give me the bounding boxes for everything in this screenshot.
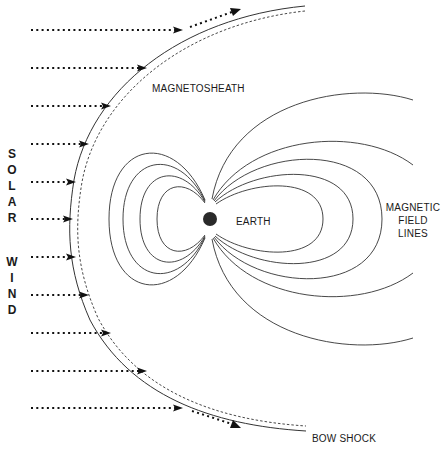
solar-wind-arrow	[31, 405, 183, 412]
bow-shock-label: BOW SHOCK	[312, 433, 376, 444]
field-lines-label-1: MAGNETIC	[386, 202, 440, 213]
solar-wind-letter: W	[6, 255, 18, 269]
solar-wind-letter: L	[8, 179, 15, 193]
solar-wind-letter: D	[8, 303, 17, 317]
magnetosheath-label: MAGNETOSHEATH	[152, 83, 245, 94]
solar-wind-label: SOLARWIND	[6, 147, 18, 317]
solar-wind-letter: O	[7, 163, 16, 177]
solar-wind-letter: I	[10, 271, 13, 285]
open-field-line	[212, 239, 413, 345]
field-line	[123, 164, 205, 273]
deflected-arrow-bottom	[192, 411, 241, 428]
solar-wind-letter: A	[8, 195, 17, 209]
dayside-field-lines	[109, 153, 205, 285]
earth-icon	[203, 212, 217, 226]
solar-wind-arrow	[31, 65, 147, 72]
deflected-arrow-top	[190, 8, 241, 27]
solar-wind-arrow	[31, 254, 76, 261]
field-lines-label-3: LINES	[398, 228, 428, 239]
magnetosphere-diagram: MAGNETOSHEATH EARTH MAGNETIC FIELD LINES…	[0, 0, 446, 452]
field-line	[157, 187, 205, 252]
solar-wind-letter: S	[8, 147, 16, 161]
solar-wind-arrow	[31, 141, 89, 148]
field-lines-label-2: FIELD	[398, 215, 427, 226]
solar-wind-arrow	[31, 27, 183, 34]
field-line	[140, 176, 205, 262]
magnetopause-line	[78, 11, 306, 426]
solar-wind-arrow	[31, 292, 89, 299]
solar-wind-letter: R	[8, 211, 17, 225]
open-field-line	[212, 93, 413, 199]
solar-wind-arrow	[31, 103, 111, 110]
solar-wind-arrow	[31, 216, 73, 223]
solar-wind-letter: N	[8, 287, 17, 301]
solar-wind-arrow	[31, 368, 147, 375]
solar-wind-arrow	[31, 179, 76, 186]
earth-label: EARTH	[236, 216, 271, 227]
